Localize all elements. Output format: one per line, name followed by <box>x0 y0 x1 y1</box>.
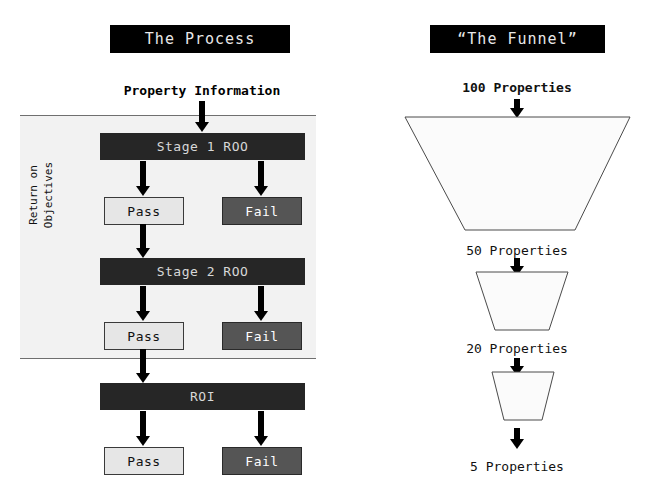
arrow-shaft <box>258 161 264 187</box>
arrow-roi-to-fail <box>258 411 264 437</box>
arrow-head <box>195 122 209 132</box>
stage-bar-stage-1[interactable]: Stage 1 ROO <box>100 133 305 160</box>
arrow-head <box>254 186 268 196</box>
arrow-shaft <box>140 161 146 187</box>
property-information-label: Property Information <box>97 83 307 98</box>
funnel-label-5-properties: 5 Properties <box>437 459 597 474</box>
arrow-head <box>510 439 524 449</box>
funnel-segment-2-shape <box>476 272 568 330</box>
funnel-banner-title: “The Funnel” <box>430 25 605 53</box>
arrow-shaft <box>140 411 146 437</box>
funnel-segment-2 <box>470 268 580 338</box>
roi-fail-box[interactable]: Fail <box>222 447 302 475</box>
arrow-shaft <box>258 411 264 437</box>
axis-label-line-2: Objectives <box>41 105 56 285</box>
stage-bar-roi[interactable]: ROI <box>100 383 305 410</box>
roi-pass-box[interactable]: Pass <box>104 447 184 475</box>
process-banner-title: The Process <box>110 25 290 53</box>
arrow-head <box>254 436 268 446</box>
arrow-stage1-to-fail <box>258 161 264 187</box>
arrow-shaft <box>199 101 205 123</box>
arrow-shaft <box>140 349 146 374</box>
funnel-segment-1-shape <box>405 117 630 230</box>
arrow-head <box>136 436 150 446</box>
arrow-head <box>136 186 150 196</box>
stage-bar-stage-2[interactable]: Stage 2 ROO <box>100 258 305 285</box>
return-on-objectives-axis-label: Return on Objectives <box>26 105 60 285</box>
arrow-stage2-to-pass <box>140 286 146 312</box>
arrow-shaft <box>258 286 264 312</box>
arrow-shaft <box>140 286 146 312</box>
arrow-pass2-to-roi <box>140 349 146 374</box>
axis-label-line-1: Return on <box>26 105 41 285</box>
funnel-label-50-properties: 50 Properties <box>437 243 597 258</box>
arrow-into-funnel-3 <box>514 358 520 367</box>
stage-1-fail-box[interactable]: Fail <box>222 197 302 225</box>
arrow-funnel-output <box>514 428 520 440</box>
stage-1-pass-box[interactable]: Pass <box>104 197 184 225</box>
funnel-segment-1 <box>400 112 640 237</box>
arrow-head <box>136 373 150 383</box>
arrow-head <box>254 311 268 321</box>
arrow-head <box>136 248 150 258</box>
funnel-label-20-properties: 20 Properties <box>437 341 597 356</box>
funnel-label-100-properties: 100 Properties <box>417 80 617 95</box>
arrow-stage2-to-fail <box>258 286 264 312</box>
arrow-stage1-to-pass <box>140 161 146 187</box>
arrow-roi-to-pass <box>140 411 146 437</box>
arrow-pass1-to-stage2 <box>140 224 146 249</box>
funnel-segment-3-shape <box>492 372 554 420</box>
arrow-input-to-stage1 <box>199 101 205 123</box>
arrow-head <box>136 311 150 321</box>
funnel-segment-3 <box>485 368 565 430</box>
arrow-shaft <box>140 224 146 249</box>
arrow-into-funnel-1 <box>514 99 520 109</box>
arrow-into-funnel-2 <box>514 258 520 267</box>
band-divider-top <box>20 115 316 116</box>
stage-2-pass-box[interactable]: Pass <box>104 322 184 350</box>
band-divider-bottom <box>20 358 316 359</box>
stage-2-fail-box[interactable]: Fail <box>222 322 302 350</box>
